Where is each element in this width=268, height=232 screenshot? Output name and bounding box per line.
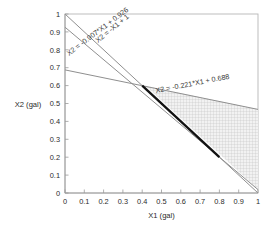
x-tick-label: 0.4: [137, 197, 147, 206]
x-tick-label: 0.3: [118, 197, 128, 206]
y-tick-label: 0.9: [50, 28, 60, 37]
x-tick-label: 0: [63, 197, 67, 206]
x-tick-label: 0.2: [98, 197, 108, 206]
y-tick-label: 0.6: [50, 81, 60, 90]
y-tick-labels: 0 0.1 0.2 0.3 0.4 0.5 0.6 0.7 0.8 0.9 1: [50, 10, 60, 198]
y-tick-label: 0.7: [50, 63, 60, 72]
x-tick-label: 0.5: [156, 197, 166, 206]
chart-figure: 0 0.1 0.2 0.3 0.4 0.5 0.6 0.7 0.8 0.9 1: [0, 0, 268, 232]
y-tick-label: 0.2: [50, 153, 60, 162]
x-axis-title: X1 (gal): [148, 211, 175, 220]
x-tick-label: 1: [256, 197, 260, 206]
y-tick-label: 1: [56, 10, 60, 19]
x-tick-labels: 0 0.1 0.2 0.3 0.4 0.5 0.6 0.7 0.8 0.9 1: [63, 197, 260, 206]
y-tick-label: 0.4: [50, 117, 60, 126]
y-tick-label: 0.3: [50, 135, 60, 144]
y-tick-label: 0.5: [50, 99, 60, 108]
x-tick-label: 0.7: [195, 197, 205, 206]
y-tick-label: 0: [56, 189, 60, 198]
y-tick-label: 0.8: [50, 46, 60, 55]
x-tick-label: 0.6: [176, 197, 186, 206]
plot-canvas: 0 0.1 0.2 0.3 0.4 0.5 0.6 0.7 0.8 0.9 1: [0, 0, 268, 232]
x-tick-label: 0.1: [79, 197, 89, 206]
y-axis-title: X2 (gal): [15, 100, 42, 109]
x-tick-label: 0.8: [214, 197, 224, 206]
y-tick-label: 0.1: [50, 171, 60, 180]
x-tick-label: 0.9: [234, 197, 244, 206]
